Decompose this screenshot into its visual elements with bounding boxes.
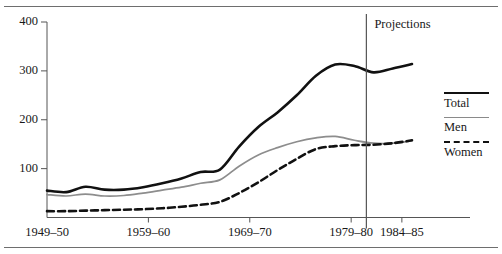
legend-swatch-men-icon <box>444 117 489 118</box>
legend-swatch-total-icon <box>444 92 489 94</box>
legend-label-women: Women <box>444 145 502 159</box>
x-axis-tick-label: 1949–50 <box>12 226 82 239</box>
series-line-women <box>47 140 412 211</box>
y-axis-tick-label: 400 <box>8 15 38 27</box>
legend-swatch-women-icon <box>444 141 489 143</box>
legend-item-men: Men <box>444 117 502 134</box>
line-chart-plot <box>0 0 502 254</box>
x-axis-tick-label: 1984–85 <box>367 226 437 239</box>
x-axis-tick-label: 1959–60 <box>113 226 183 239</box>
y-axis-tick-label: 200 <box>8 113 38 125</box>
chart-series <box>47 64 412 211</box>
x-axis-tick-label: 1969–70 <box>215 226 285 239</box>
chart-legend: Total Men Women <box>444 92 502 166</box>
y-axis-tick-label: 100 <box>8 162 38 174</box>
projections-label: Projections <box>374 17 430 32</box>
legend-label-total: Total <box>444 96 502 110</box>
figure-container: 100200300400 1949–501959–601969–701979–8… <box>0 0 502 254</box>
chart-axes <box>41 22 470 223</box>
legend-item-total: Total <box>444 92 502 110</box>
y-axis-tick-label: 300 <box>8 64 38 76</box>
legend-label-men: Men <box>444 120 502 134</box>
legend-item-women: Women <box>444 141 502 159</box>
